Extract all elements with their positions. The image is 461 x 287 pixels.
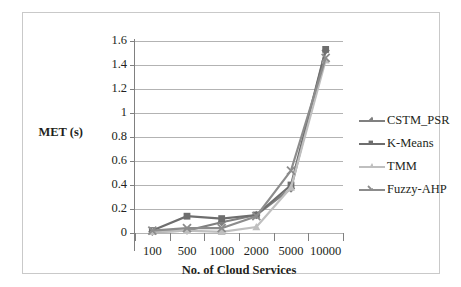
legend-label: TMM — [385, 159, 417, 174]
y-tick-mark — [130, 209, 135, 210]
y-tick-label: 0 — [83, 226, 127, 238]
y-tick-mark — [130, 185, 135, 186]
legend-label: Fuzzy-AHP — [385, 182, 447, 197]
legend-item[interactable]: K-Means — [359, 132, 461, 155]
y-tick-label: 1.2 — [83, 82, 127, 94]
y-tick-mark — [130, 113, 135, 114]
y-tick-label: 1 — [83, 106, 127, 118]
series-line — [152, 58, 325, 231]
data-point-marker — [218, 215, 225, 222]
legend-marker-icon — [359, 161, 385, 173]
chart-frame: MET (s) 00.20.40.60.811.21.41.6 10050010… — [22, 12, 440, 274]
legend-item[interactable]: TMM — [359, 155, 461, 178]
legend-label: CSTM_PSR — [385, 113, 450, 128]
legend-item[interactable]: CSTM_PSR — [359, 109, 461, 132]
y-tick-label: 1.6 — [83, 34, 127, 46]
legend-item[interactable]: Fuzzy-AHP — [359, 178, 461, 201]
y-tick-mark — [130, 65, 135, 66]
x-tick-mark — [343, 233, 344, 241]
chart-legend: CSTM_PSRK-MeansTMMFuzzy-AHP — [359, 109, 461, 201]
x-tick-mark — [204, 233, 205, 241]
data-point-marker — [184, 213, 191, 220]
y-tick-mark — [130, 233, 135, 234]
x-tick-mark — [135, 233, 136, 241]
x-axis-title: No. of Cloud Services — [135, 263, 343, 278]
y-tick-label: 0.6 — [83, 154, 127, 166]
legend-marker-icon — [359, 115, 385, 127]
legend-marker-icon — [359, 184, 385, 196]
x-tick-mark — [170, 233, 171, 241]
y-tick-label: 1.4 — [83, 58, 127, 70]
x-tick-mark — [239, 233, 240, 241]
y-tick-mark — [130, 41, 135, 42]
y-axis-title: MET (s) — [27, 125, 83, 140]
y-axis-tick-labels: 00.20.40.60.811.21.41.6 — [79, 13, 127, 275]
x-tick-label: 10000 — [302, 244, 350, 259]
x-axis-ticks — [135, 233, 343, 242]
y-tick-mark — [130, 89, 135, 90]
x-tick-mark — [274, 233, 275, 241]
y-tick-label: 0.4 — [83, 178, 127, 190]
series-lines — [135, 41, 343, 233]
y-tick-label: 0.8 — [83, 130, 127, 142]
y-tick-label: 0.2 — [83, 202, 127, 214]
x-tick-mark — [308, 233, 309, 241]
y-tick-mark — [130, 161, 135, 162]
plot-area — [135, 41, 343, 233]
legend-marker-icon — [359, 138, 385, 150]
data-point-marker — [322, 46, 329, 53]
x-axis-tick-labels: 10050010002000500010000 — [119, 244, 369, 260]
legend-label: K-Means — [385, 136, 434, 151]
chart-figure: MET (s) 00.20.40.60.811.21.41.6 10050010… — [0, 0, 461, 287]
y-tick-mark — [130, 137, 135, 138]
